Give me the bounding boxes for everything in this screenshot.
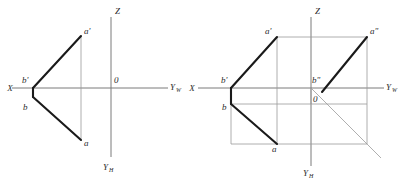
- left-label-z: Z: [115, 6, 121, 16]
- left-label-x: X: [6, 83, 13, 93]
- right-view-group: X Z 0 Y W Y H a' a" b' b" b a: [188, 6, 398, 179]
- right-label-origin: 0: [313, 94, 318, 104]
- left-label-b-prime: b': [22, 75, 30, 85]
- left-label-origin: 0: [114, 75, 119, 85]
- left-label-b: b: [23, 102, 28, 112]
- left-segment-b-a: [33, 97, 81, 140]
- right-label-b: b: [222, 102, 227, 112]
- right-label-a-double-prime: a": [370, 26, 379, 36]
- right-segment-b-prime-a-prime: [231, 37, 277, 88]
- right-segment-b-a: [231, 104, 277, 144]
- right-label-yw-subscript: W: [392, 87, 398, 93]
- right-segment-b-double-prime-a-double-prime: [322, 37, 367, 92]
- figure-canvas: X Z 0 Y W Y H a' b' b a: [0, 0, 402, 182]
- right-label-a: a: [272, 144, 277, 154]
- left-label-yh-subscript: H: [108, 167, 114, 173]
- right-label-z: Z: [315, 6, 321, 16]
- left-view-group: X Z 0 Y W Y H a' b' b a: [6, 6, 182, 173]
- left-label-yw-subscript: W: [176, 87, 182, 93]
- left-label-a: a: [84, 138, 89, 148]
- right-label-a-prime: a': [265, 26, 273, 36]
- left-label-a-prime: a': [84, 26, 92, 36]
- right-label-x: X: [188, 83, 195, 93]
- right-label-b-prime: b': [221, 75, 229, 85]
- right-bisector-45: [311, 88, 381, 158]
- right-label-yh-subscript: H: [308, 173, 314, 179]
- left-segment-b-prime-a-prime: [33, 36, 81, 88]
- projection-drawing: X Z 0 Y W Y H a' b' b a: [0, 0, 402, 182]
- right-label-b-double-prime: b": [312, 75, 321, 85]
